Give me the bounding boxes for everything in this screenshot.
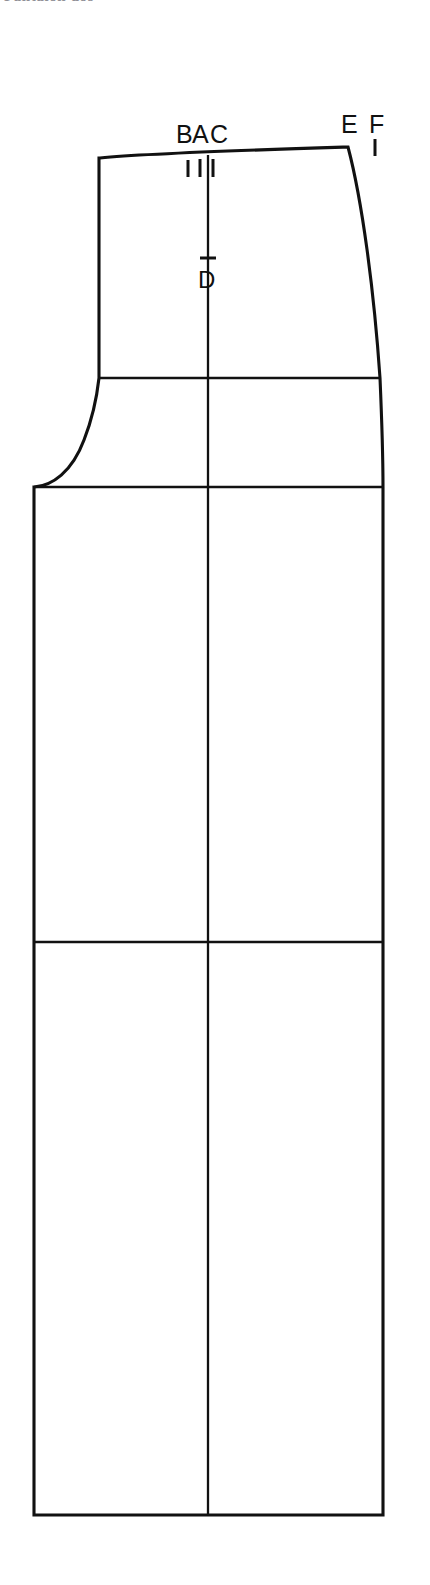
- pattern-diagram: Pantalon dos B A C D E F: [0, 0, 430, 1585]
- point-label-e: E: [341, 110, 358, 138]
- point-label-c: C: [210, 120, 228, 148]
- point-label-a: A: [192, 120, 209, 148]
- point-label-f: F: [369, 110, 384, 138]
- point-label-b: B: [176, 120, 193, 148]
- point-label-d: D: [198, 266, 215, 293]
- pattern-canvas: B A C D E F: [0, 0, 430, 1585]
- page-caption-clipped: Pantalon dos: [4, 0, 94, 2]
